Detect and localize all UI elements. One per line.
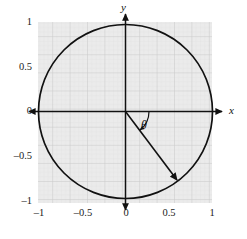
y-tick-1: 1 bbox=[6, 17, 32, 28]
x-tick-0p5: 0.5 bbox=[153, 208, 185, 219]
x-tick-neg0p5: –0.5 bbox=[67, 208, 99, 219]
x-tick-neg1: –1 bbox=[26, 208, 52, 219]
y-tick-neg1: –1 bbox=[2, 196, 32, 207]
theta-label: θ bbox=[141, 119, 147, 131]
y-tick-neg0p5: –0.5 bbox=[2, 151, 32, 162]
unit-circle-figure bbox=[0, 0, 247, 239]
y-tick-0p5: 0.5 bbox=[6, 62, 32, 73]
y-tick-0: 0 bbox=[6, 106, 32, 117]
y-axis-label: y bbox=[121, 2, 126, 13]
x-axis-label: x bbox=[229, 105, 234, 116]
x-tick-1: 1 bbox=[199, 208, 225, 219]
x-tick-0: 0 bbox=[113, 208, 139, 219]
